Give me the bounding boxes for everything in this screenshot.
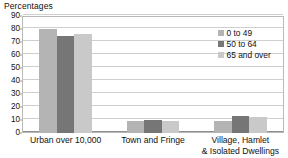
bar: [232, 116, 250, 133]
bar: [127, 121, 145, 133]
bar: [214, 121, 232, 133]
bar: [57, 36, 75, 134]
legend-label: 50 to 64: [227, 40, 257, 49]
x-axis-label-line: & Isolated Dwellings: [197, 146, 284, 157]
bar: [162, 121, 180, 133]
legend-label: 65 and over: [227, 51, 271, 60]
bar: [249, 117, 267, 133]
x-axis-label-line: Urban over 10,000: [30, 135, 101, 145]
legend-item[interactable]: 50 to 64: [218, 39, 284, 49]
x-axis-label: Village, Hamlet& Isolated Dwellings: [197, 135, 284, 156]
percentages-bar-chart: Percentages 9080706050403020100 Urban ov…: [0, 0, 288, 158]
legend-label: 0 to 49: [227, 29, 253, 38]
bar: [74, 34, 92, 133]
bar: [39, 29, 57, 133]
x-axis-label: Urban over 10,000: [22, 135, 109, 146]
legend-swatch-icon: [218, 30, 224, 36]
legend-swatch-icon: [218, 41, 224, 47]
legend-swatch-icon: [218, 52, 224, 58]
legend-item[interactable]: 0 to 49: [218, 28, 284, 38]
gridline-90: [23, 14, 283, 15]
x-axis-label-line: Town and Fringe: [121, 135, 185, 145]
x-axis-label: Town and Fringe: [109, 135, 196, 146]
legend-item[interactable]: 65 and over: [218, 50, 284, 60]
bar-group: [127, 16, 180, 133]
y-axis-tick-marks: [0, 16, 24, 133]
bar-group: [39, 16, 92, 133]
bar: [144, 120, 162, 133]
x-axis-category-labels: Urban over 10,000Town and FringeVillage,…: [22, 135, 284, 158]
legend: 0 to 4950 to 6465 and over: [218, 28, 284, 61]
y-axis-title: Percentages: [4, 1, 53, 11]
x-axis-label-line: Village, Hamlet: [212, 135, 270, 145]
